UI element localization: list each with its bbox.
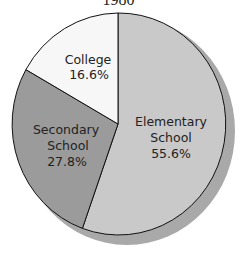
label-secondary-2: School bbox=[47, 138, 89, 153]
label-college-1: College bbox=[65, 52, 112, 67]
label-secondary-pct: 27.8% bbox=[47, 154, 87, 169]
label-elementary-pct: 55.6% bbox=[151, 146, 191, 161]
label-elementary-2: School bbox=[150, 130, 192, 145]
label-college-pct: 16.6% bbox=[69, 67, 109, 82]
label-secondary-1: Secondary bbox=[33, 122, 100, 137]
label-elementary-1: Elementary bbox=[135, 114, 208, 129]
pie-chart: Elementary School 55.6% Secondary School… bbox=[0, 0, 245, 271]
